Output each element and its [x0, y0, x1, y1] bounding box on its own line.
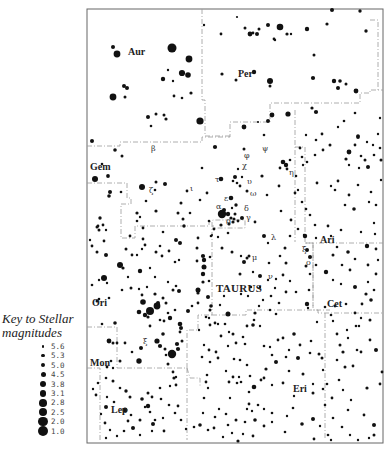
star [309, 214, 312, 217]
star [300, 422, 304, 426]
greek-star-label: ε [224, 194, 228, 203]
star [149, 411, 152, 414]
key-magnitude-value: 1.0 [51, 427, 65, 436]
key-title-line2: magnitudes [2, 326, 88, 340]
star [91, 284, 94, 287]
star [238, 376, 240, 378]
star [299, 147, 302, 150]
star [201, 167, 204, 170]
star [119, 387, 122, 390]
greek-star-label: χ [242, 161, 247, 170]
star [119, 360, 122, 363]
star [314, 154, 317, 157]
star [112, 380, 115, 383]
star [241, 176, 243, 178]
star [315, 237, 317, 239]
star [305, 134, 307, 136]
star [233, 358, 236, 361]
star [246, 364, 249, 367]
star [142, 227, 145, 230]
star [116, 342, 119, 345]
constellation-label-eri: Eri [293, 383, 307, 394]
star [202, 265, 207, 270]
star [201, 254, 205, 258]
star [227, 345, 229, 347]
star [223, 295, 225, 297]
star [112, 367, 114, 369]
star [141, 294, 144, 297]
greek-star-label: γ [246, 213, 251, 222]
star [167, 312, 170, 315]
star [217, 323, 219, 325]
star [341, 426, 344, 429]
star [324, 270, 328, 274]
star [110, 360, 113, 363]
star [208, 349, 211, 352]
boundary-line [87, 90, 383, 146]
constellation-label-aur: Aur [128, 46, 145, 57]
star [366, 141, 368, 143]
star [295, 175, 298, 178]
star [125, 248, 128, 251]
star [239, 185, 242, 188]
star [356, 134, 360, 138]
star [267, 78, 273, 84]
star [208, 317, 210, 319]
star [285, 262, 288, 265]
star [306, 161, 309, 164]
star [301, 201, 304, 204]
star [220, 335, 223, 338]
star [149, 267, 151, 269]
star [108, 190, 112, 194]
star [145, 200, 148, 203]
star [191, 305, 194, 308]
star [189, 91, 192, 94]
star [271, 384, 273, 386]
greek-star-label: η [289, 168, 294, 177]
star [311, 417, 315, 421]
star [116, 435, 118, 437]
star [354, 89, 359, 94]
star [292, 332, 296, 336]
star [380, 179, 382, 181]
star [332, 279, 334, 281]
star [130, 414, 133, 417]
star [90, 139, 94, 143]
star [336, 359, 339, 362]
star [309, 352, 312, 355]
key-magnitude-value: 2.8 [51, 398, 65, 407]
star [312, 392, 315, 395]
star [246, 325, 249, 328]
star [198, 329, 200, 331]
star [179, 70, 185, 76]
star [344, 366, 347, 369]
star [322, 369, 324, 371]
star [257, 404, 260, 407]
greek-star-label: ξ [302, 245, 306, 254]
greek-star-label: ο [306, 258, 311, 267]
star [360, 351, 363, 354]
star [252, 435, 255, 438]
star [175, 376, 177, 378]
key-entry: 4.5 [36, 370, 65, 379]
star [286, 168, 289, 171]
star [167, 69, 169, 71]
star [154, 276, 156, 278]
star [219, 223, 222, 226]
star [302, 164, 304, 166]
boundary-line [202, 9, 232, 136]
star [341, 264, 344, 267]
star [205, 381, 208, 384]
star [310, 106, 313, 109]
key-entry: 2.5 [36, 408, 65, 417]
star [182, 224, 185, 227]
star [299, 344, 302, 347]
star [342, 389, 344, 391]
star [253, 311, 256, 314]
greek-star-label: ξ [143, 337, 147, 346]
star [159, 319, 162, 322]
star [209, 309, 212, 312]
star [347, 337, 349, 339]
star [209, 361, 212, 364]
star [262, 299, 264, 301]
